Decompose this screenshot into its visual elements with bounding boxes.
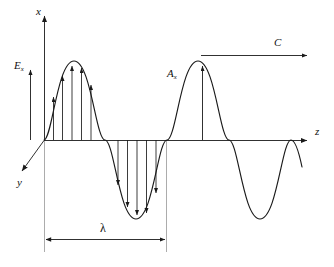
field-vectors-up-group	[54, 66, 92, 140]
amplitude-symbol: A	[167, 67, 174, 79]
wavelength-label: λ	[100, 222, 106, 234]
wave-diagram-canvas	[0, 0, 334, 267]
sine-wave-curve	[44, 61, 302, 219]
speed-label: C	[274, 37, 281, 48]
y-axis-label: y	[17, 177, 22, 188]
wave-diagram-figure: x y z Ex Ax C λ	[0, 0, 334, 267]
x-axis-label: x	[36, 6, 41, 17]
amplitude-subscript: x	[174, 73, 177, 80]
axis-group	[22, 16, 307, 171]
z-axis-label: z	[315, 126, 319, 137]
field-vector-subscript: x	[21, 65, 24, 72]
y-axis-line	[22, 141, 44, 172]
field-vector-label: Ex	[14, 60, 24, 72]
field-vector-symbol: E	[14, 59, 21, 71]
wavelength-measure-group	[45, 141, 167, 252]
amplitude-label: Ax	[167, 68, 177, 80]
